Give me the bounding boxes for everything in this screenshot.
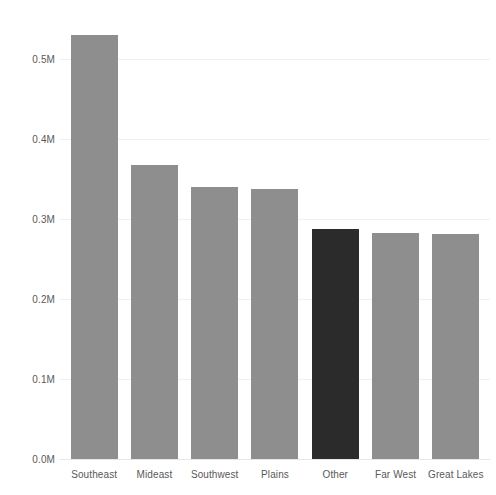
bar-series bbox=[60, 0, 490, 459]
y-axis-tick-label: 0.3M bbox=[32, 214, 55, 225]
bar-column[interactable] bbox=[426, 0, 486, 459]
bar-chart: 0.0M0.1M0.2M0.3M0.4M0.5M SoutheastMideas… bbox=[0, 0, 496, 495]
bar[interactable] bbox=[372, 233, 419, 459]
y-axis-tick-label: 0.0M bbox=[32, 454, 55, 465]
bar[interactable] bbox=[312, 229, 359, 459]
gridline bbox=[60, 459, 490, 460]
y-axis-tick-label: 0.1M bbox=[32, 374, 55, 385]
x-axis-label: Great Lakes bbox=[426, 465, 486, 485]
bar-column[interactable] bbox=[245, 0, 305, 459]
y-axis-tick-label: 0.4M bbox=[32, 134, 55, 145]
bar-column[interactable] bbox=[124, 0, 184, 459]
bar[interactable] bbox=[131, 165, 178, 459]
bar[interactable] bbox=[191, 187, 238, 459]
bar-column[interactable] bbox=[365, 0, 425, 459]
x-axis-label: Far West bbox=[365, 465, 425, 485]
x-axis-label: Southwest bbox=[185, 465, 245, 485]
x-axis-label: Mideast bbox=[124, 465, 184, 485]
bar[interactable] bbox=[432, 234, 479, 459]
bar-column[interactable] bbox=[64, 0, 124, 459]
bar-column[interactable] bbox=[185, 0, 245, 459]
x-axis: SoutheastMideastSouthwestPlainsOtherFar … bbox=[60, 465, 490, 485]
x-axis-label: Plains bbox=[245, 465, 305, 485]
bar-column[interactable] bbox=[305, 0, 365, 459]
x-axis-label: Other bbox=[305, 465, 365, 485]
bar[interactable] bbox=[71, 35, 118, 459]
x-axis-label: Southeast bbox=[64, 465, 124, 485]
bar[interactable] bbox=[251, 189, 298, 459]
y-axis-tick-label: 0.5M bbox=[32, 54, 55, 65]
y-axis-tick-label: 0.2M bbox=[32, 294, 55, 305]
